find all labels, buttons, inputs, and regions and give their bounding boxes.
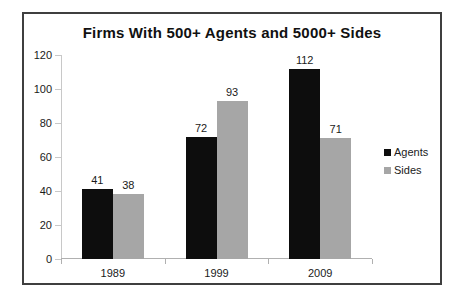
chart-legend: AgentsSides (384, 146, 444, 182)
legend-swatch-icon (384, 167, 391, 174)
legend-item-agents[interactable]: Agents (384, 146, 444, 158)
y-axis-tick (55, 55, 61, 56)
y-axis-label: 60 (40, 151, 52, 163)
y-axis-tick (55, 191, 61, 192)
x-axis-tick (165, 259, 166, 264)
x-axis-label-1999: 1999 (204, 267, 228, 279)
bar-sides-2009[interactable] (320, 138, 351, 259)
y-axis-label: 40 (40, 185, 52, 197)
bar-agents-1999[interactable] (186, 137, 217, 259)
y-axis-label: 120 (34, 49, 52, 61)
x-axis-tick (61, 259, 62, 264)
y-axis-tick (55, 89, 61, 90)
y-axis-label: 20 (40, 219, 52, 231)
bar-agents-1989[interactable] (82, 189, 113, 259)
y-axis-tick (55, 157, 61, 158)
y-axis-label: 80 (40, 117, 52, 129)
legend-item-sides[interactable]: Sides (384, 164, 444, 176)
y-axis-label: 100 (34, 83, 52, 95)
x-axis-tick (372, 259, 373, 264)
legend-label: Sides (394, 164, 422, 176)
chart-frame: Firms With 500+ Agents and 5000+ Sides 0… (22, 12, 442, 285)
y-axis-label: 0 (46, 253, 52, 265)
chart-title: Firms With 500+ Agents and 5000+ Sides (24, 24, 440, 41)
bar-agents-2009[interactable] (289, 69, 320, 259)
bar-value-label: 71 (330, 123, 342, 135)
x-axis-label-1989: 1989 (101, 267, 125, 279)
x-axis-label-2009: 2009 (308, 267, 332, 279)
bar-sides-1989[interactable] (113, 194, 144, 259)
y-axis-tick (55, 123, 61, 124)
y-axis-tick (55, 225, 61, 226)
bar-value-label: 93 (226, 86, 238, 98)
bar-value-label: 41 (91, 174, 103, 186)
bar-value-label: 72 (195, 122, 207, 134)
y-axis-line (61, 55, 62, 259)
plot-area: 020406080100120 4138729311271 1989199920… (61, 55, 372, 259)
bar-sides-1999[interactable] (217, 101, 248, 259)
legend-swatch-icon (384, 149, 391, 156)
bar-value-label: 38 (122, 179, 134, 191)
legend-label: Agents (394, 146, 428, 158)
x-axis-tick (268, 259, 269, 264)
bar-value-label: 112 (296, 54, 314, 66)
